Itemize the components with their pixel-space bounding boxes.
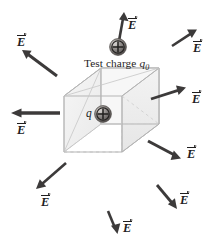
field-label-text: E — [193, 41, 201, 55]
field-label-text: E — [41, 195, 49, 209]
field-label-right-down: E — [187, 148, 195, 161]
test-charge — [110, 39, 127, 56]
field-label-text: E — [123, 221, 131, 235]
source-charge-label: q — [86, 108, 92, 120]
field-label-lower-left: E — [41, 196, 49, 209]
charges-layer — [0, 0, 219, 244]
caption-subscript: 0 — [145, 63, 149, 72]
field-label-text: E — [180, 193, 188, 207]
field-label-upper-right: E — [193, 42, 201, 55]
field-label-text: E — [192, 92, 200, 106]
caption-prefix: Test charge — [84, 57, 139, 69]
field-label-down: E — [123, 222, 131, 235]
field-label-text: E — [17, 35, 25, 49]
field-label-text: E — [128, 18, 136, 32]
field-label-lower-right: E — [180, 194, 188, 207]
field-label-up: E — [128, 19, 136, 32]
test-charge-caption: Test charge q0 — [84, 57, 149, 72]
field-label-text: E — [17, 123, 25, 137]
source-charge — [95, 106, 112, 123]
electric-field-figure: Test charge q0 q E E E E E E E E E — [0, 0, 219, 244]
field-label-left: E — [17, 124, 25, 137]
field-label-upper-left: E — [17, 36, 25, 49]
field-label-text: E — [187, 147, 195, 161]
field-label-right-up: E — [192, 93, 200, 106]
